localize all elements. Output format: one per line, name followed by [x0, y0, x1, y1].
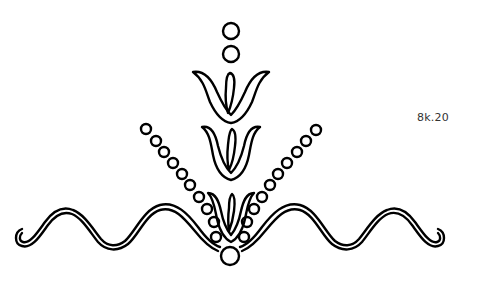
right-wave: [240, 204, 444, 251]
top-dot: [223, 46, 239, 62]
top-dot: [223, 23, 239, 39]
left-wave: [16, 204, 220, 251]
upper-tulip: [193, 72, 269, 123]
left-dot-chain: [141, 124, 221, 242]
base-dot: [221, 247, 239, 265]
middle-tulip: [202, 127, 260, 180]
top-dots: [223, 23, 239, 62]
figure-label: 8k.20: [417, 111, 449, 124]
ornament-drawing: [0, 0, 478, 288]
